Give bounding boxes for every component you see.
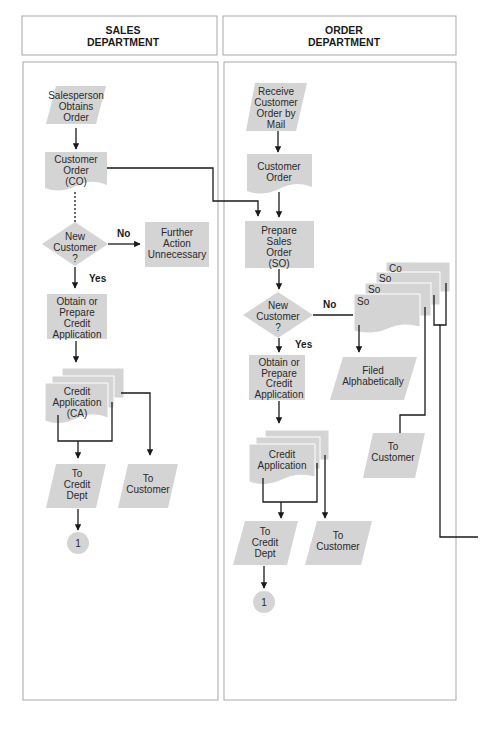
svg-text:New: New — [65, 231, 86, 242]
svg-text:Credit: Credit — [269, 449, 296, 460]
yes-label-order: Yes — [295, 339, 313, 350]
svg-text:(CO): (CO) — [65, 176, 87, 187]
svg-text:Application: Application — [255, 389, 304, 400]
svg-text:So: So — [357, 296, 370, 307]
svg-text:Prepare: Prepare — [59, 307, 95, 318]
svg-text:Obtain or: Obtain or — [258, 357, 300, 368]
svg-text:Customer: Customer — [256, 311, 300, 322]
sales-department-header: SALES DEPARTMENT — [22, 16, 217, 55]
obtain-credit-application-box-order: Obtain or Prepare Credit Application — [249, 355, 305, 400]
svg-text:Credit: Credit — [266, 378, 293, 389]
svg-text:Customer: Customer — [126, 484, 170, 495]
svg-text:Order: Order — [63, 165, 89, 176]
svg-text:Order: Order — [63, 112, 89, 123]
filed-alphabetically-box: Filed Alphabetically — [330, 357, 417, 400]
svg-text:Application: Application — [53, 397, 102, 408]
svg-text:Order by: Order by — [257, 108, 296, 119]
svg-text:Application: Application — [258, 460, 307, 471]
svg-text:1: 1 — [261, 597, 267, 608]
svg-text:To: To — [143, 473, 154, 484]
no-label-order: No — [323, 299, 336, 310]
svg-text:Unnecessary: Unnecessary — [148, 249, 206, 260]
svg-text:DEPARTMENT: DEPARTMENT — [87, 36, 160, 48]
svg-text:Alphabetically: Alphabetically — [342, 376, 404, 387]
to-credit-dept-sales: To Credit Dept — [46, 464, 106, 508]
svg-text:Further: Further — [161, 227, 194, 238]
svg-text:Filed: Filed — [362, 365, 384, 376]
yes-label: Yes — [89, 273, 107, 284]
svg-text:So: So — [379, 273, 392, 284]
no-label: No — [117, 228, 130, 239]
svg-text:Order: Order — [266, 247, 292, 258]
ca-to-customer-arrow — [121, 393, 150, 455]
sales-order-copies-stack: Co So So So — [354, 262, 450, 333]
order-department-header: ORDER DEPARTMENT — [223, 16, 456, 55]
svg-text:Customer: Customer — [257, 161, 301, 172]
to-customer-order-right: To Customer — [363, 433, 425, 478]
off-page-connector-1-order: 1 — [253, 591, 275, 613]
to-credit-dept-order: To Credit Dept — [233, 521, 298, 565]
svg-text:Mail: Mail — [267, 119, 285, 130]
co-copy-to-next-line — [440, 283, 478, 537]
svg-text:Order: Order — [266, 172, 292, 183]
co-to-prepare-sales-order-arrow — [107, 168, 258, 216]
svg-text:SALES: SALES — [105, 24, 140, 36]
new-customer-decision-sales: New Customer ? — [42, 222, 108, 266]
svg-text:Credit: Credit — [252, 537, 279, 548]
svg-text:DEPARTMENT: DEPARTMENT — [308, 36, 381, 48]
svg-text:Credit: Credit — [64, 386, 91, 397]
obtain-credit-application-box-sales: Obtain or Prepare Credit Application — [47, 294, 107, 340]
svg-text:Credit: Credit — [64, 479, 91, 490]
svg-text:Obtains: Obtains — [59, 101, 93, 112]
svg-text:Prepare: Prepare — [261, 225, 297, 236]
svg-text:Dept: Dept — [254, 548, 275, 559]
svg-text:?: ? — [275, 322, 281, 333]
svg-text:Salesperson: Salesperson — [48, 90, 104, 101]
salesperson-obtains-order-input: Salesperson Obtains Order — [46, 86, 106, 124]
new-customer-decision-order: New Customer ? — [243, 292, 313, 338]
to-customer-sales: To Customer — [118, 464, 178, 508]
svg-text:Customer: Customer — [254, 97, 298, 108]
off-page-connector-1-sales: 1 — [67, 532, 89, 554]
svg-text:(SO): (SO) — [268, 258, 289, 269]
svg-text:Customer: Customer — [316, 541, 360, 552]
svg-text:Obtain or: Obtain or — [56, 296, 98, 307]
svg-text:New: New — [268, 300, 289, 311]
svg-text:?: ? — [72, 253, 78, 264]
svg-text:Application: Application — [53, 329, 102, 340]
svg-text:Receive: Receive — [258, 86, 295, 97]
receive-order-by-mail-input: Receive Customer Order by Mail — [246, 83, 307, 131]
svg-text:1: 1 — [75, 538, 81, 549]
further-action-unnecessary-box: Further Action Unnecessary — [145, 222, 209, 267]
svg-text:(CA): (CA) — [67, 408, 88, 419]
svg-text:Credit: Credit — [64, 318, 91, 329]
svg-text:So: So — [368, 284, 381, 295]
prepare-sales-order-box: Prepare Sales Order (SO) — [245, 221, 314, 269]
svg-text:To: To — [72, 468, 83, 479]
svg-text:ORDER: ORDER — [325, 24, 363, 36]
svg-text:Sales: Sales — [266, 236, 291, 247]
to-customer-order: To Customer — [305, 521, 372, 565]
svg-text:Customer: Customer — [371, 452, 415, 463]
customer-order-document: Customer Order — [247, 154, 312, 194]
svg-text:Customer: Customer — [54, 154, 98, 165]
svg-text:Customer: Customer — [53, 242, 97, 253]
svg-text:Action: Action — [163, 238, 191, 249]
customer-order-co-document: Customer Order (CO) — [45, 152, 107, 191]
svg-text:To: To — [333, 530, 344, 541]
svg-text:To: To — [260, 526, 271, 537]
flowchart-canvas: SALES DEPARTMENT ORDER DEPARTMENT Salesp… — [0, 0, 490, 750]
svg-text:Dept: Dept — [66, 490, 87, 501]
svg-text:To: To — [388, 441, 399, 452]
